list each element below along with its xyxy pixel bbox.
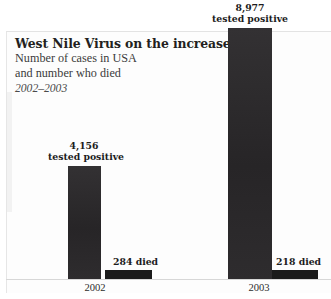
bar-value-2003-positive: 8,977	[208, 2, 292, 13]
bar-value-2002-positive: 4,156	[48, 140, 120, 151]
bar-sublabel-2003-positive: tested positive	[208, 13, 292, 24]
x-tick-2002: 2002	[70, 282, 120, 293]
bar-value-label-2003-died: 218 died	[276, 256, 321, 267]
bar-2002-tested-positive	[68, 166, 101, 279]
bar-sublabel-2002-positive: tested positive	[48, 151, 120, 162]
plot-area: 4,156 tested positive 284 died 2002 8,97…	[0, 0, 331, 299]
bar-value-label-2002-died: 284 died	[113, 256, 158, 267]
bar-2002-died	[105, 270, 152, 279]
bar-2003-died	[272, 270, 318, 279]
bar-value-label-2002-positive: 4,156 tested positive	[48, 140, 120, 162]
x-tick-2003: 2003	[234, 282, 284, 293]
chart-figure: West Nile Virus on the increase Number o…	[0, 0, 331, 299]
bar-2003-tested-positive	[228, 28, 272, 279]
axis-baseline	[6, 279, 331, 280]
bar-value-label-2003-positive: 8,977 tested positive	[208, 2, 292, 24]
